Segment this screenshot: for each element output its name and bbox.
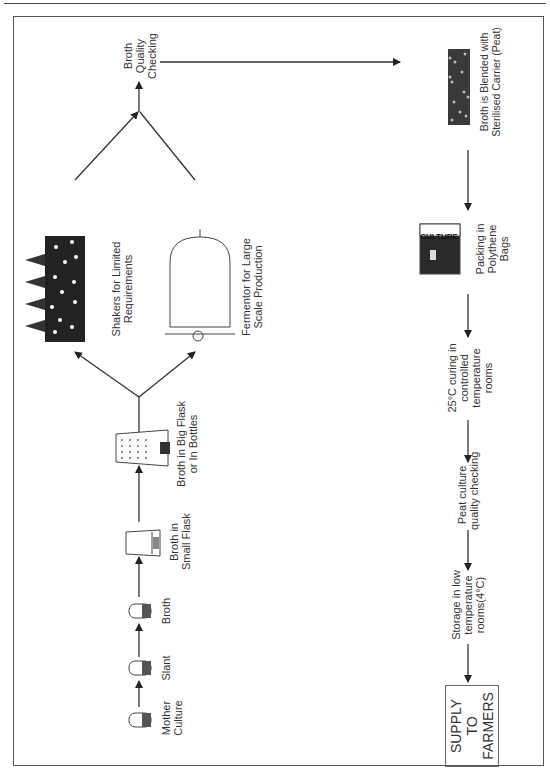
arrow-fermentor-to-check	[140, 112, 195, 180]
supply-to-farmers-box: SUPPLY TO FARMERS	[445, 685, 499, 767]
small-flask-icon	[126, 530, 160, 556]
big-flask-icon	[116, 430, 170, 466]
label-blended: Broth is Blended with Sterilised Carrier…	[478, 22, 502, 142]
arrow-to-fermentor	[139, 352, 195, 397]
bag-label: CULTURE	[420, 231, 458, 243]
label-packing: Packing in Polythene Bags	[474, 214, 510, 284]
fermentor-icon	[165, 229, 235, 341]
shaker-icon	[25, 236, 85, 342]
label-broth: Broth	[160, 595, 172, 627]
label-slant: Slant	[160, 652, 172, 684]
test-tube-icon-slant	[129, 661, 151, 675]
label-storage: Storage in low temperature rooms(4°C)	[450, 568, 486, 642]
label-peat-check: Peat culture quality checking	[456, 460, 480, 530]
peat-carrier-icon	[448, 49, 470, 125]
label-quality-check: Broth Quality Checking	[122, 30, 158, 82]
label-curing: 25°C curing in controlled temperature ro…	[446, 339, 494, 417]
label-small-flask: Broth in Small Flask	[168, 514, 192, 570]
label-big-flask: Broth in Big Flask or In Bottles	[175, 396, 199, 492]
flow-diagram: CULTURE Mother Culture Slant Broth Broth…	[0, 0, 550, 782]
test-tube-icon-broth	[129, 604, 151, 618]
label-mother-culture: Mother Culture	[160, 698, 184, 738]
arrow-shakers-to-check	[75, 112, 138, 180]
label-shakers: Shakers for Limited Requirements	[110, 236, 134, 342]
arrow-to-shakers	[75, 352, 139, 397]
test-tube-icon-mother	[129, 713, 151, 727]
label-fermentor: Fermentor for Large Scale Production	[240, 232, 264, 342]
